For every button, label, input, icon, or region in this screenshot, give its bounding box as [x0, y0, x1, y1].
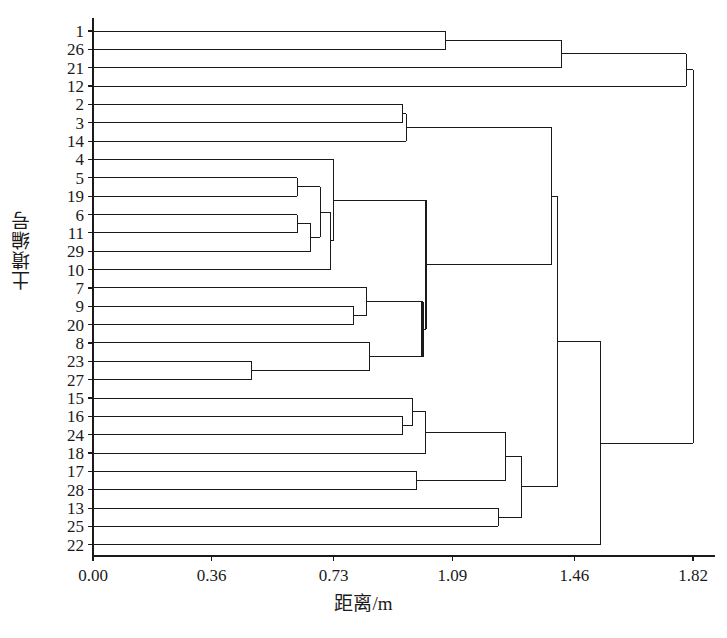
x-axis-title: 距离/m	[0, 588, 727, 615]
y-tick-label-11: 11	[40, 224, 84, 241]
y-tick-label-28: 28	[40, 481, 84, 498]
dendrogram-figure: 1262112231445196112910792082327151624181…	[0, 0, 727, 638]
y-tick-label-4: 4	[40, 151, 84, 168]
dendrogram-links	[93, 31, 693, 545]
plot-axes	[88, 18, 715, 561]
y-tick-label-24: 24	[40, 426, 84, 443]
y-axis-title: 土墤编号	[8, 210, 36, 290]
x-tick-label-0: 0.00	[78, 567, 108, 584]
y-tick-label-17: 17	[40, 463, 84, 480]
y-tick-label-19: 19	[40, 188, 84, 205]
y-tick-label-9: 9	[40, 298, 84, 315]
dendrogram-plot	[0, 0, 727, 638]
y-tick-label-25: 25	[40, 518, 84, 535]
y-tick-label-3: 3	[40, 114, 84, 131]
y-tick-label-2: 2	[40, 96, 84, 113]
y-tick-label-18: 18	[40, 445, 84, 462]
y-tick-label-7: 7	[40, 279, 84, 296]
y-tick-label-21: 21	[40, 59, 84, 76]
y-tick-label-20: 20	[40, 316, 84, 333]
y-tick-label-16: 16	[40, 408, 84, 425]
y-tick-label-26: 26	[40, 41, 84, 58]
y-tick-label-1: 1	[40, 23, 84, 40]
y-tick-label-15: 15	[40, 390, 84, 407]
y-tick-label-14: 14	[40, 133, 84, 150]
y-tick-label-5: 5	[40, 169, 84, 186]
x-tick-label-4: 1.46	[559, 567, 589, 584]
y-tick-label-23: 23	[40, 353, 84, 370]
y-tick-label-6: 6	[40, 206, 84, 223]
y-tick-label-29: 29	[40, 243, 84, 260]
x-tick-label-1: 0.36	[197, 567, 227, 584]
x-tick-label-3: 1.09	[437, 567, 467, 584]
y-tick-label-22: 22	[40, 536, 84, 553]
x-tick-label-5: 1.82	[678, 567, 708, 584]
y-tick-label-8: 8	[40, 334, 84, 351]
y-tick-label-12: 12	[40, 78, 84, 95]
y-tick-label-10: 10	[40, 261, 84, 278]
y-tick-label-27: 27	[40, 371, 84, 388]
x-tick-label-2: 0.73	[319, 567, 349, 584]
y-tick-label-13: 13	[40, 500, 84, 517]
